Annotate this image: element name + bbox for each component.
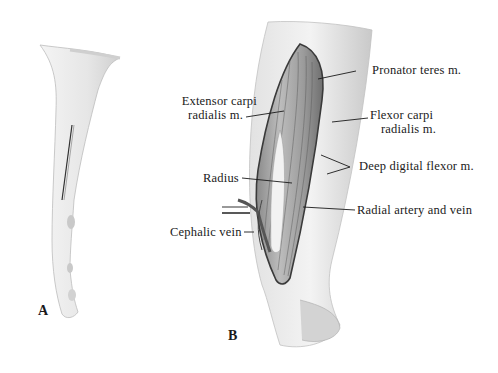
label-deep-digital-flexor: Deep digital flexor m. xyxy=(359,159,474,173)
label-flexor-line2: radialis m. xyxy=(370,122,436,136)
label-extensor-line1: Extensor carpi xyxy=(163,94,257,108)
panel-label-a: A xyxy=(38,303,48,319)
anatomy-figure: Extensor carpi radialis m. Pronator tere… xyxy=(0,0,498,373)
illustration xyxy=(0,0,498,373)
panel-b-forearm xyxy=(222,21,372,346)
label-flexor-carpi-radialis: Flexor carpi radialis m. xyxy=(370,108,436,136)
label-flexor-line1: Flexor carpi xyxy=(370,108,436,122)
label-extensor-line2: radialis m. xyxy=(163,108,257,122)
label-extensor-carpi-radialis: Extensor carpi radialis m. xyxy=(163,94,257,122)
label-cephalic-vein: Cephalic vein xyxy=(170,225,242,239)
label-radius: Radius xyxy=(203,171,239,185)
label-pronator-teres: Pronator teres m. xyxy=(372,63,461,77)
label-radial-artery-vein: Radial artery and vein xyxy=(357,203,472,217)
panel-a-limb xyxy=(40,45,120,318)
panel-label-b: B xyxy=(228,328,237,344)
